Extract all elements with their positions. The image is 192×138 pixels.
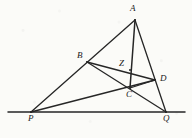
vertex-label-c: C [126,90,132,99]
vertex-point-b [86,61,88,63]
segment-layer [8,20,185,112]
vertex-point-d [154,79,156,81]
vertex-label-a: A [130,4,136,13]
segment-A-Q [135,20,166,112]
vertex-point-z [129,69,131,71]
vertex-label-p: P [28,114,34,123]
vertex-point-a [134,19,136,21]
vertex-label-b: B [77,51,83,60]
segment-A-C [130,20,135,88]
vertex-label-z: Z [119,59,124,68]
vertex-label-q: Q [163,114,170,123]
segment-C-D [130,80,155,88]
geometry-figure: ABZDCPQ [0,0,192,138]
vertex-label-d: D [160,74,167,83]
